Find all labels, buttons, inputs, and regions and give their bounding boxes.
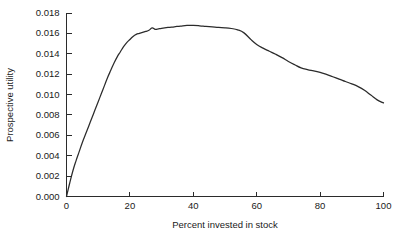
y-tick-label: 0.018 bbox=[36, 7, 60, 18]
x-axis-ticks: 020406080100 bbox=[64, 192, 392, 211]
y-tick-label: 0.016 bbox=[36, 27, 60, 38]
x-tick-label: 100 bbox=[376, 200, 392, 211]
chart-figure: 0.0000.0020.0040.0060.0080.0100.0120.014… bbox=[0, 0, 412, 234]
y-tick-label: 0.012 bbox=[36, 68, 60, 79]
prospective-utility-line-chart: 0.0000.0020.0040.0060.0080.0100.0120.014… bbox=[0, 0, 412, 234]
x-tick-label: 0 bbox=[64, 200, 69, 211]
y-tick-label: 0.008 bbox=[36, 109, 60, 120]
y-tick-label: 0.000 bbox=[36, 191, 60, 202]
y-tick-label: 0.004 bbox=[36, 150, 60, 161]
x-tick-label: 20 bbox=[125, 200, 136, 211]
y-tick-label: 0.006 bbox=[36, 129, 60, 140]
y-tick-label: 0.010 bbox=[36, 89, 60, 100]
x-tick-label: 40 bbox=[188, 200, 199, 211]
data-curve-prospective-utility bbox=[67, 25, 384, 196]
x-tick-label: 60 bbox=[251, 200, 262, 211]
axes bbox=[67, 13, 384, 197]
y-tick-label: 0.014 bbox=[36, 48, 60, 59]
y-axis-title: Prospective utility bbox=[4, 68, 15, 142]
y-tick-label: 0.002 bbox=[36, 170, 60, 181]
x-axis-title: Percent invested in stock bbox=[172, 219, 278, 230]
x-tick-label: 80 bbox=[315, 200, 326, 211]
